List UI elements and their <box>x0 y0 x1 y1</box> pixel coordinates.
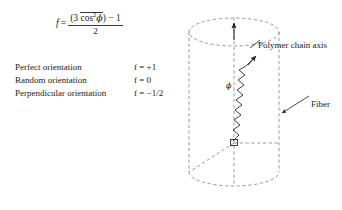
formula-denominator: 2 <box>68 26 123 36</box>
orientation-function-formula: f= (3 cos2ϕ) − 1 2 <box>56 12 123 36</box>
angle-phi-label: ϕ <box>226 81 232 90</box>
orientation-cases-list: Perfect orientation f = +1 Random orient… <box>15 62 175 101</box>
equation-panel: f= (3 cos2ϕ) − 1 2 Perfect orientation f… <box>0 0 176 210</box>
formula-equals: = <box>61 18 66 28</box>
case-value: f = −1/2 <box>134 88 163 98</box>
case-label: Random orientation <box>15 75 134 85</box>
polymer-chain-zigzag <box>233 58 254 141</box>
fiber-label: Fiber <box>311 99 330 109</box>
list-item: Perfect orientation f = +1 <box>15 62 175 75</box>
formula-num-minus-one: − 1 <box>108 13 120 23</box>
case-label: Perpendicular orientation <box>15 88 134 98</box>
polymer-chain-axis-label: Polymer chain axis <box>258 40 327 50</box>
formula-num-open: (3 <box>70 13 78 23</box>
formula-cos: cos <box>80 13 93 23</box>
list-item: Random orientation f = 0 <box>15 75 175 88</box>
base-radius-line <box>189 143 234 172</box>
polymer-chain-arrow <box>248 56 256 65</box>
formula-numerator: (3 cos2ϕ) − 1 <box>68 12 123 26</box>
case-value: f = +1 <box>134 62 156 72</box>
formula-fraction: (3 cos2ϕ) − 1 2 <box>68 12 123 36</box>
case-label: Perfect orientation <box>15 62 134 72</box>
formula-num-close: ) <box>103 13 106 23</box>
list-item: Perpendicular orientation f = −1/2 <box>15 88 175 101</box>
formula-lhs: f <box>56 17 59 28</box>
formula-mean-cos-squared-phi: cos2ϕ <box>80 12 102 24</box>
fiber-leader-line <box>282 96 309 113</box>
cylinder-bottom-arc <box>189 172 279 186</box>
case-value: f = 0 <box>134 75 151 85</box>
